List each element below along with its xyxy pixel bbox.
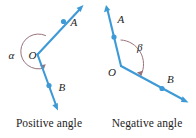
ray-ob-arrowhead	[52, 103, 58, 111]
ray-ob	[38, 55, 57, 107]
label-a-positive: A	[70, 16, 78, 28]
label-alpha: α	[9, 49, 15, 61]
negative-angle-diagram: A B O β	[98, 0, 196, 116]
ray-ob-arrowhead	[181, 96, 189, 102]
ray-ob-point	[46, 83, 51, 88]
label-b-positive: B	[59, 81, 66, 93]
label-o-negative: O	[108, 66, 116, 78]
positive-angle-panel: A B O α Positive angle	[0, 0, 98, 138]
label-beta: β	[136, 41, 143, 53]
caption-negative-angle: Negative angle	[98, 116, 196, 130]
label-a-negative: A	[117, 13, 125, 25]
angle-figure: A B O α Positive angle A	[0, 0, 196, 138]
positive-angle-diagram: A B O α	[0, 0, 98, 116]
ray-ob	[121, 66, 184, 100]
ray-ob-point	[159, 86, 164, 91]
negative-angle-panel: A B O β Negative angle	[98, 0, 196, 138]
ray-oa-point	[61, 19, 66, 24]
ray-oa-point	[111, 34, 116, 39]
label-o-positive: O	[29, 49, 37, 61]
caption-positive-angle: Positive angle	[0, 116, 98, 130]
label-b-negative: B	[167, 73, 174, 85]
